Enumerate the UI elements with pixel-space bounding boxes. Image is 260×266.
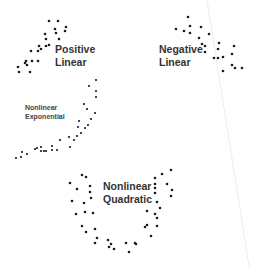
- positive-linear-label-line1: Positive: [55, 43, 95, 56]
- negative-linear-label: Negative Linear: [159, 43, 203, 69]
- nonlinear-exponential-label-line1: Nonlinear: [25, 104, 65, 113]
- nonlinear-exponential-label-line2: Exponential: [25, 113, 65, 122]
- nonlinear-exponential-label: Nonlinear Exponential: [25, 104, 65, 122]
- negative-linear-label-line2: Linear: [159, 56, 203, 69]
- nonlinear-quadratic-label-line1: Nonlinear: [103, 180, 152, 193]
- nonlinear-quadratic-label: Nonlinear Quadratic: [103, 180, 152, 206]
- scatter-plots: [0, 0, 260, 266]
- negative-linear-label-line1: Negative: [159, 43, 203, 56]
- scatter-relationship-diagram: Positive Linear Negative Linear Nonlinea…: [0, 0, 260, 266]
- faint-divider-line: [207, 0, 249, 266]
- positive-linear-label-line2: Linear: [55, 56, 95, 69]
- positive-linear-label: Positive Linear: [55, 43, 95, 69]
- nonlinear-quadratic-label-line2: Quadratic: [103, 193, 152, 206]
